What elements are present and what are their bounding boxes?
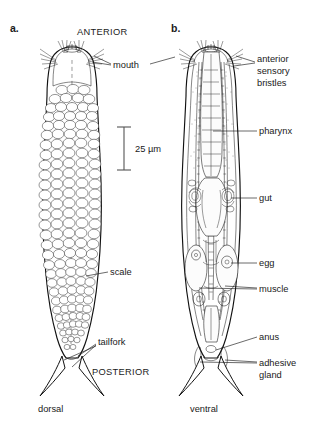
panel-b-egg-left [185,245,207,291]
mouth-label: mouth [113,60,139,70]
gut-label: gut [259,193,272,203]
panel-a-view-label: dorsal [38,404,63,414]
anterior-bristles-label-line2: sensory [257,66,290,76]
scale-label: scale [110,267,132,277]
anterior-label: ANTERIOR [77,27,127,37]
panel-b-pharynx [201,52,223,177]
tailfork-label: tailfork [98,337,126,347]
panel-label-a: a. [10,22,19,34]
panel-b-gut [196,178,227,236]
panel-b-view-label: ventral [190,404,218,414]
posterior-label: POSTERIOR [92,367,149,377]
muscle-label: muscle [259,284,288,294]
scale-bar-label: 25 µm [135,144,161,154]
panel-label-b: b. [171,22,180,34]
anatomical-figure: a. b. ANTERIOR POSTERIOR [0,0,319,428]
anus-label: anus [259,332,280,342]
figure-canvas: a. b. ANTERIOR POSTERIOR [0,0,319,428]
panel-b-hindgut [204,306,220,342]
anterior-bristles-label-line3: bristles [257,78,287,88]
anterior-bristles-label-line1: anterior [257,54,289,64]
egg-label: egg [259,258,275,268]
pharynx-label: pharynx [259,126,292,136]
adhesive-gland-label-line1: adhesive [259,358,296,368]
adhesive-gland-label-line2: gland [259,370,282,380]
